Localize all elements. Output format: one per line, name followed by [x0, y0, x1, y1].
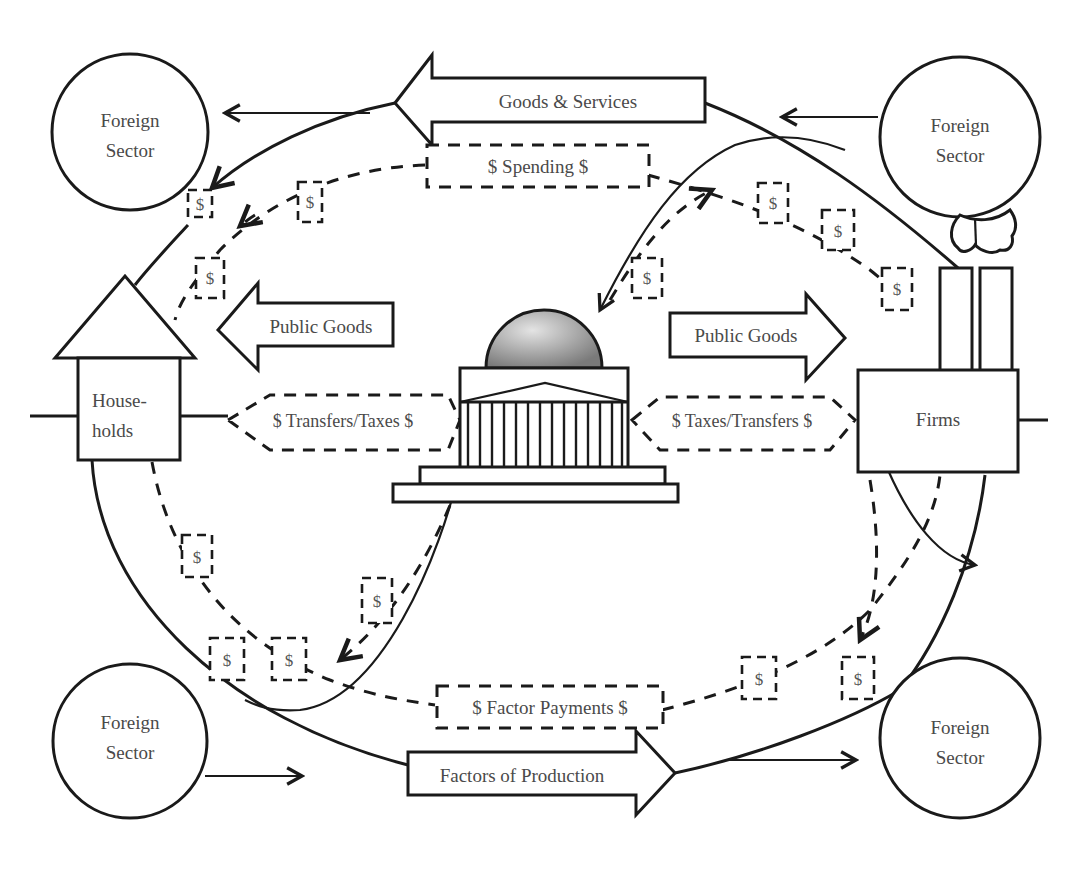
- smoke-icon: [951, 210, 1015, 253]
- factors-of-production-arrow: Factors of Production: [408, 731, 675, 815]
- foreign-sector-bottom-right: Foreign Sector: [880, 658, 1040, 818]
- goods-services-label: Goods & Services: [499, 91, 637, 112]
- svg-text:$: $: [206, 269, 215, 288]
- dollar-token-icon: $: [822, 210, 854, 250]
- dollar-token-icon: $: [362, 578, 392, 623]
- foreign-sector-label: Foreign: [100, 110, 160, 131]
- svg-text:$: $: [769, 194, 778, 213]
- dollar-token-icon: $: [882, 268, 912, 310]
- step-upper: [420, 467, 665, 484]
- firms-label: Firms: [916, 409, 960, 430]
- svg-text:$: $: [834, 222, 843, 241]
- dollar-token-icon: $: [842, 657, 874, 699]
- foreign-sector-top-right: Foreign Sector: [880, 57, 1040, 217]
- foreign-sector-top-left: Foreign Sector: [52, 54, 208, 210]
- svg-text:$: $: [196, 195, 205, 214]
- svg-text:$: $: [193, 548, 202, 567]
- svg-text:$: $: [306, 193, 315, 212]
- foreign-sector-label: Foreign: [930, 115, 990, 136]
- dome: [486, 310, 602, 368]
- households-label: House-: [92, 390, 147, 411]
- dollar-token-icon: $: [196, 258, 224, 298]
- foreign-sector-label: Sector: [936, 747, 985, 768]
- dollar-token-icon: $: [298, 182, 322, 222]
- public-goods-left-arrow: Public Goods: [218, 283, 393, 370]
- dollar-token-icon: $: [742, 657, 776, 699]
- chimney-icon: [940, 268, 972, 375]
- svg-text:$: $: [373, 592, 382, 611]
- dollar-token-icon: $: [210, 638, 244, 680]
- households-node: House- holds: [55, 276, 195, 460]
- step-lower: [393, 484, 678, 502]
- svg-text:$: $: [755, 670, 764, 689]
- circular-flow-diagram: Foreign Sector Foreign Sector Foreign Se…: [0, 0, 1092, 872]
- dollar-token-icon: $: [272, 638, 306, 680]
- households-label: holds: [92, 420, 133, 441]
- transfers-taxes-label: $ Transfers/Taxes $: [273, 411, 414, 431]
- dollar-token-icon: $: [182, 535, 212, 577]
- factor-payments-label: $ Factor Payments $: [472, 697, 628, 718]
- dollar-token-icon: $: [188, 190, 212, 217]
- chimney-icon: [980, 268, 1012, 375]
- dollar-token-icon: $: [758, 183, 788, 223]
- house-roof-icon: [55, 276, 195, 358]
- public-goods-right-arrow: Public Goods: [670, 294, 845, 380]
- transfers-taxes-flow: $ Transfers/Taxes $: [228, 395, 460, 450]
- svg-text:$: $: [854, 670, 863, 689]
- foreign-sector-bottom-left: Foreign Sector: [53, 664, 207, 818]
- spending-flow-box: $ Spending $: [427, 145, 649, 187]
- taxes-transfers-flow: $ Taxes/Transfers $: [632, 397, 855, 450]
- public-goods-label: Public Goods: [695, 325, 798, 346]
- factor-payments-flow-box: $ Factor Payments $: [437, 686, 663, 728]
- foreign-sector-label: Sector: [936, 145, 985, 166]
- foreign-sector-label: Foreign: [930, 717, 990, 738]
- svg-text:$: $: [643, 269, 652, 288]
- dollar-token-icon: $: [632, 258, 662, 298]
- foreign-sector-label: Foreign: [100, 712, 160, 733]
- taxes-transfers-label: $ Taxes/Transfers $: [672, 411, 813, 431]
- public-goods-label: Public Goods: [270, 316, 373, 337]
- goods-services-arrow: Goods & Services: [395, 55, 705, 145]
- foreign-sector-label: Sector: [106, 140, 155, 161]
- svg-text:$: $: [285, 651, 294, 670]
- foreign-sector-label: Sector: [106, 742, 155, 763]
- spending-label: $ Spending $: [488, 156, 588, 177]
- svg-text:$: $: [223, 651, 232, 670]
- svg-text:$: $: [893, 280, 902, 299]
- factors-of-production-label: Factors of Production: [440, 765, 605, 786]
